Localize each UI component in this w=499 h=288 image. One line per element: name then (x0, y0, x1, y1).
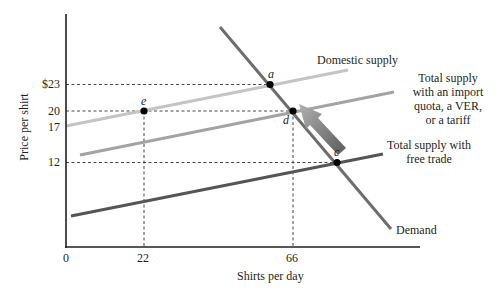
domestic-supply-label: Domestic supply (317, 53, 398, 67)
guide-lines (66, 85, 337, 248)
point-label-a: a (268, 67, 274, 81)
restricted-supply-label-line3: quota, a VER, (398, 99, 498, 113)
x-axis-label: Shirts per day (237, 269, 304, 283)
point-d (289, 107, 296, 114)
point-label-c: c (334, 145, 339, 159)
free-trade-label-line2: free trade (374, 152, 484, 166)
restricted-supply-label: Total supply with an import quota, a VER… (398, 71, 498, 127)
free-trade-supply-label: Total supply with free trade (374, 138, 484, 166)
x-tick-22: 22 (137, 251, 149, 265)
point-a (266, 81, 273, 88)
point-c (333, 159, 340, 166)
y-tick-20: 20 (48, 104, 60, 118)
restricted-supply-line (80, 92, 394, 155)
free-trade-label-line1: Total supply with (374, 138, 484, 152)
x-tick-66: 66 (286, 251, 298, 265)
restricted-supply-label-line1: Total supply (398, 71, 498, 85)
restricted-supply-label-line4: or a tariff (398, 113, 498, 127)
point-e (140, 107, 147, 114)
demand-label: Demand (396, 223, 437, 237)
restricted-supply-label-line2: with an import (398, 85, 498, 99)
x-tick-0: 0 (63, 251, 69, 265)
y-tick-12: 12 (48, 155, 60, 169)
y-axis-label: Price per shirt (17, 87, 31, 167)
point-label-e: e (141, 94, 146, 108)
point-label-d: d (283, 113, 289, 127)
y-tick-17: 17 (48, 120, 60, 134)
y-tick-23: $23 (42, 77, 60, 91)
